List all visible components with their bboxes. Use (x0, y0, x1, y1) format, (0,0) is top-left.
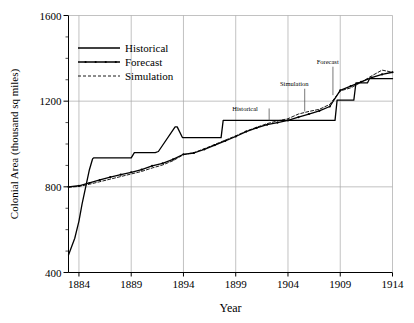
x-tick-label: 1894 (172, 278, 195, 290)
annotations: HistoricalSimulationForecast (232, 58, 339, 121)
tick-labels: 4008001200160018841889189418991904190919… (40, 10, 405, 290)
gridlines (69, 16, 393, 273)
legend-label-forecast: Forecast (125, 56, 162, 68)
y-tick-label: 1200 (40, 95, 63, 107)
chart-plot-area: 4008001200160018841889189418991904190919… (0, 0, 414, 323)
data-point (130, 171, 132, 173)
x-tick-label: 1914 (382, 278, 405, 290)
annotation-label: Historical (232, 105, 258, 112)
annotation-label: Forecast (317, 58, 339, 65)
legend-marker (84, 61, 86, 63)
x-axis-title: Year (219, 301, 241, 315)
series-line-simulation (69, 70, 393, 187)
y-tick-label: 400 (45, 267, 62, 279)
data-point (120, 174, 122, 176)
data-point (318, 110, 320, 112)
data-point (266, 124, 268, 126)
y-tick-label: 800 (45, 181, 62, 193)
x-tick-label: 1904 (277, 278, 300, 290)
legend-marker (95, 61, 97, 63)
legend: HistoricalForecastSimulation (78, 42, 174, 82)
x-tick-label: 1884 (68, 278, 91, 290)
data-point (297, 116, 299, 118)
x-tick-label: 1889 (120, 278, 143, 290)
y-tick-label: 1600 (40, 10, 63, 22)
data-point (329, 105, 331, 107)
x-tick-label: 1909 (329, 278, 352, 290)
data-point (99, 179, 101, 181)
data-point (109, 176, 111, 178)
data-point (276, 121, 278, 123)
y-axis-title: Colonial Area (thousand sq miles) (8, 69, 21, 220)
x-tick-label: 1899 (225, 278, 248, 290)
data-point (381, 73, 383, 75)
data-point (161, 162, 163, 164)
data-point (308, 113, 310, 115)
data-point (151, 165, 153, 167)
data-point (141, 169, 143, 171)
annotation-label: Simulation (280, 80, 309, 87)
series-line-historical (69, 79, 393, 255)
legend-marker (105, 61, 107, 63)
axes (69, 16, 393, 273)
legend-label-simulation: Simulation (125, 70, 174, 82)
tick-marks (64, 16, 393, 277)
data-point (172, 158, 174, 160)
data-point (287, 119, 289, 121)
legend-marker (115, 61, 117, 63)
chart-figure: 4008001200160018841889189418991904190919… (0, 0, 414, 323)
data-point (350, 85, 352, 87)
legend-label-historical: Historical (125, 42, 168, 54)
data-series-group (67, 70, 393, 255)
